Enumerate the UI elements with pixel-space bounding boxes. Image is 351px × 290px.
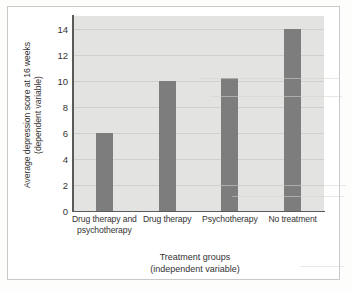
- x-axis-tick-label: No treatment: [250, 214, 335, 225]
- x-axis-title-line-1: Treatment groups: [60, 252, 330, 264]
- plot-area: [73, 16, 324, 211]
- y-axis-tick-label: 8: [46, 102, 68, 113]
- x-axis-tick-label-line: psychotherapy: [62, 225, 147, 236]
- x-axis-tick-label-line: No treatment: [250, 214, 335, 225]
- y-axis-title-line-2: (dependent variable): [33, 20, 44, 210]
- bar: [221, 78, 238, 211]
- x-axis-line: [72, 211, 325, 213]
- y-axis-tick-label: 10: [46, 76, 68, 87]
- bar: [284, 29, 301, 211]
- bar: [159, 81, 176, 211]
- x-axis-title-line-2: (independent variable): [60, 264, 330, 276]
- y-axis-title: Average depression score at 16 weeks (de…: [22, 20, 44, 210]
- bar-chart-figure: Average depression score at 16 weeks (de…: [0, 0, 351, 290]
- x-axis-tick-labels: Drug therapy andpsychotherapyDrug therap…: [73, 214, 324, 244]
- y-axis-title-line-1: Average depression score at 16 weeks: [22, 20, 33, 210]
- y-axis-tick-label: 14: [46, 24, 68, 35]
- bar: [96, 133, 113, 211]
- y-axis-tick-label: 4: [46, 154, 68, 165]
- x-axis-title: Treatment groups (independent variable): [60, 252, 330, 275]
- y-axis-tick-labels: 02468101214: [44, 0, 68, 290]
- y-axis-line: [72, 15, 74, 212]
- y-axis-tick-label: 12: [46, 50, 68, 61]
- y-axis-tick-label: 6: [46, 128, 68, 139]
- y-axis-tick-label: 2: [46, 180, 68, 191]
